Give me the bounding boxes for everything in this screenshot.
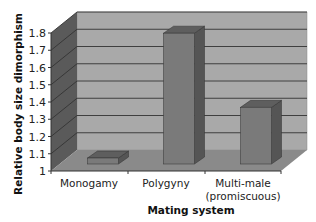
y-tick-label: 1.4 bbox=[29, 96, 47, 109]
y-tick-label: 1.3 bbox=[29, 113, 47, 126]
y-axis-title: Relative body size dimorphism bbox=[12, 13, 24, 195]
x-category-label: Polygyny bbox=[142, 177, 189, 189]
y-tick-label: 1.1 bbox=[29, 148, 47, 161]
x-axis: MonogamyPolygynyMulti-male(promiscuous) bbox=[51, 171, 281, 202]
y-tick-label: 1.6 bbox=[29, 62, 47, 75]
y-axis: 11.11.21.31.41.51.61.71.8 bbox=[29, 27, 52, 178]
x-axis-title: Mating system bbox=[147, 204, 234, 216]
y-tick-label: 1.7 bbox=[29, 44, 47, 57]
y-tick-label: 1.2 bbox=[29, 131, 47, 144]
x-category-label: Multi-male bbox=[215, 177, 271, 189]
x-category-label: (promiscuous) bbox=[206, 190, 281, 202]
x-category-label: Monogamy bbox=[60, 177, 118, 189]
bar bbox=[241, 100, 282, 164]
bar-chart: 11.11.21.31.41.51.61.71.8 MonogamyPolygy… bbox=[0, 0, 316, 222]
y-tick-label: 1.5 bbox=[29, 79, 47, 92]
y-tick-label: 1.8 bbox=[29, 27, 47, 40]
bar bbox=[164, 26, 205, 164]
y-tick-label: 1 bbox=[39, 165, 46, 178]
